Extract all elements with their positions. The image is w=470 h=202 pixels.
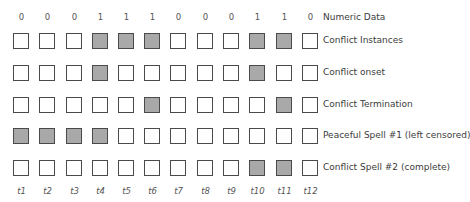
empty-cell: [170, 65, 186, 81]
empty-cell: [144, 65, 160, 81]
empty-cell: [170, 128, 186, 144]
empty-cell: [92, 97, 108, 113]
filled-cell: [92, 33, 108, 49]
empty-cell: [302, 65, 318, 81]
filled-cell: [276, 33, 292, 49]
empty-cell: [197, 65, 213, 81]
numeric-value: 0: [39, 10, 56, 24]
filled-cell: [39, 128, 55, 144]
empty-cell: [118, 65, 134, 81]
empty-cell: [92, 160, 108, 176]
empty-cell: [39, 33, 55, 49]
empty-cell: [223, 128, 239, 144]
empty-cell: [276, 128, 292, 144]
empty-cell: [197, 160, 213, 176]
empty-cell: [249, 128, 265, 144]
filled-cell: [66, 128, 82, 144]
row-label: Conflict Spell #2 (complete): [323, 160, 450, 174]
numeric-value: 1: [276, 10, 293, 24]
row-conflict-spell-2: Conflict Spell #2 (complete): [0, 160, 448, 177]
numeric-value: 1: [249, 10, 266, 24]
row-label: Conflict Termination: [323, 97, 413, 111]
numeric-value: 0: [302, 10, 319, 24]
empty-cell: [66, 65, 82, 81]
empty-cell: [223, 97, 239, 113]
empty-cell: [13, 97, 29, 113]
row-label: Conflict onset: [323, 65, 385, 79]
time-label: t9: [223, 184, 240, 198]
empty-cell: [197, 97, 213, 113]
time-label: t5: [118, 184, 135, 198]
numeric-value: 1: [144, 10, 161, 24]
filled-cell: [249, 33, 265, 49]
time-label: t10: [249, 184, 266, 198]
empty-cell: [39, 97, 55, 113]
numeric-data-label: Numeric Data: [323, 10, 385, 24]
row-conflict-onset: Conflict onset: [0, 65, 448, 82]
empty-cell: [144, 128, 160, 144]
empty-cell: [118, 160, 134, 176]
row-conflict-termination: Conflict Termination: [0, 97, 448, 114]
empty-cell: [13, 160, 29, 176]
empty-cell: [197, 128, 213, 144]
time-label: t2: [39, 184, 56, 198]
time-label: t1: [13, 184, 30, 198]
empty-cell: [170, 33, 186, 49]
empty-cell: [144, 160, 160, 176]
numeric-value: 0: [13, 10, 30, 24]
empty-cell: [223, 65, 239, 81]
row-conflict-instances: Conflict Instances: [0, 33, 448, 50]
time-label: t4: [92, 184, 109, 198]
empty-cell: [249, 97, 265, 113]
time-label: t8: [197, 184, 214, 198]
filled-cell: [118, 33, 134, 49]
filled-cell: [92, 128, 108, 144]
numeric-value: 1: [118, 10, 135, 24]
filled-cell: [144, 33, 160, 49]
numeric-value: 0: [223, 10, 240, 24]
empty-cell: [13, 65, 29, 81]
time-label: t7: [170, 184, 187, 198]
filled-cell: [144, 97, 160, 113]
empty-cell: [302, 33, 318, 49]
empty-cell: [197, 33, 213, 49]
empty-cell: [302, 97, 318, 113]
empty-cell: [276, 65, 292, 81]
row-label: Conflict Instances: [323, 33, 403, 47]
time-label: t3: [66, 184, 83, 198]
empty-cell: [170, 160, 186, 176]
empty-cell: [118, 97, 134, 113]
filled-cell: [276, 160, 292, 176]
empty-cell: [66, 33, 82, 49]
filled-cell: [249, 65, 265, 81]
time-label: t11: [276, 184, 293, 198]
numeric-value: 0: [66, 10, 83, 24]
filled-cell: [13, 128, 29, 144]
filled-cell: [249, 160, 265, 176]
empty-cell: [170, 97, 186, 113]
numeric-value: 1: [92, 10, 109, 24]
empty-cell: [66, 97, 82, 113]
empty-cell: [223, 160, 239, 176]
empty-cell: [66, 160, 82, 176]
empty-cell: [39, 65, 55, 81]
time-label: t12: [302, 184, 319, 198]
filled-cell: [276, 97, 292, 113]
filled-cell: [92, 65, 108, 81]
numeric-value: 0: [197, 10, 214, 24]
empty-cell: [302, 128, 318, 144]
numeric-value: 0: [170, 10, 187, 24]
empty-cell: [118, 128, 134, 144]
time-label: t6: [144, 184, 161, 198]
empty-cell: [223, 33, 239, 49]
row-label: Peaceful Spell #1 (left censored): [323, 128, 470, 142]
empty-cell: [13, 33, 29, 49]
empty-cell: [302, 160, 318, 176]
empty-cell: [39, 160, 55, 176]
row-peaceful-spell-1: Peaceful Spell #1 (left censored): [0, 128, 448, 145]
